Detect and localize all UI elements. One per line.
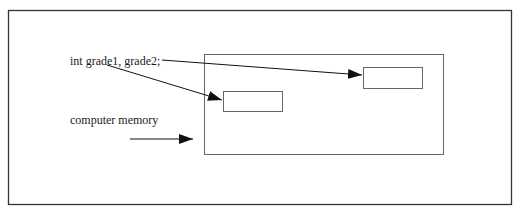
arrow-to-grade2 <box>162 60 362 75</box>
grade1-cell <box>224 92 283 112</box>
memory-diagram: int grade1, grade2; computer memory <box>0 0 520 211</box>
grade2-cell <box>364 68 423 89</box>
declaration-label: int grade1, grade2; <box>70 54 160 68</box>
memory-box <box>205 55 444 155</box>
memory-label: computer memory <box>70 113 158 127</box>
outer-frame <box>9 11 512 205</box>
